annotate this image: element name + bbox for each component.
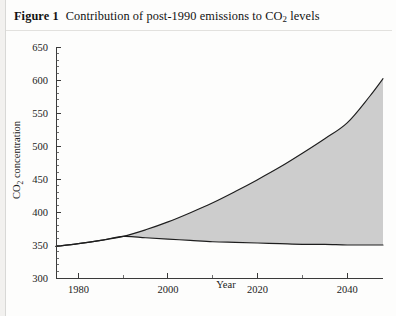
- y-axis-title-part-a: CO: [11, 184, 22, 199]
- figure-number: Figure 1: [14, 9, 59, 23]
- x-tick-label: 2000: [157, 284, 178, 295]
- figure-caption: Figure 1Contribution of post-1990 emissi…: [14, 9, 386, 27]
- y-tick-label: 400: [32, 207, 48, 218]
- co2-concentration-chart: 300350400450500550600650 198020002020204…: [0, 30, 396, 316]
- y-tick-label: 350: [32, 240, 48, 251]
- y-tick-label: 500: [32, 141, 48, 152]
- y-axis-title: CO2 concentration: [11, 120, 25, 199]
- y-tick-label: 550: [32, 108, 48, 119]
- chart-svg: 300350400450500550600650 198020002020204…: [0, 30, 396, 316]
- y-tick-label: 300: [32, 273, 48, 284]
- x-tick-label: 1980: [68, 284, 89, 295]
- figure-caption-text-b: levels: [287, 9, 319, 23]
- figure-caption-text-a: Contribution of post-1990 emissions to C…: [66, 9, 283, 23]
- y-tick-label: 450: [32, 174, 48, 185]
- x-axis-tick-labels: 1980200020202040: [68, 284, 358, 295]
- x-tick-label: 2020: [247, 284, 268, 295]
- shaded-contribution-band: [123, 79, 383, 245]
- figure-page: Figure 1Contribution of post-1990 emissi…: [0, 0, 396, 316]
- x-axis-title: Year: [216, 279, 236, 290]
- y-axis-ticks: [56, 47, 61, 278]
- x-tick-label: 2040: [337, 284, 358, 295]
- y-tick-label: 650: [32, 42, 48, 53]
- plot-layer: [56, 79, 383, 247]
- x-axis-ticks: [78, 273, 347, 278]
- y-axis-title-part-b: concentration: [11, 120, 22, 181]
- y-tick-label: 600: [32, 75, 48, 86]
- y-axis-tick-labels: 300350400450500550600650: [32, 42, 48, 284]
